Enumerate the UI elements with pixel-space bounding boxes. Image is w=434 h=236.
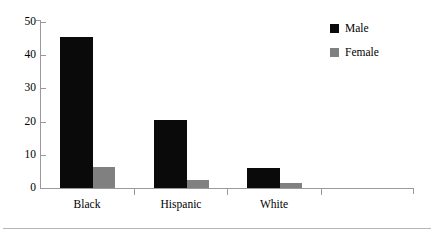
bar-hispanic-female [187, 180, 209, 188]
bar-white-female [280, 183, 302, 188]
bar-black-male [60, 37, 93, 188]
legend-swatch-icon [330, 24, 339, 33]
y-axis-tick-label: 10 [6, 149, 36, 161]
bar-hispanic-male [154, 120, 187, 188]
x-axis-tick-mark [134, 189, 135, 195]
x-axis-category-label: Hispanic [134, 198, 228, 211]
y-axis-tick-label: 20 [6, 116, 36, 128]
x-axis-category-label: White [227, 198, 321, 211]
legend-label: Female [345, 46, 379, 58]
x-axis-tick-mark [321, 189, 322, 195]
x-axis-tick-mark [227, 189, 228, 195]
y-axis-top-cap [36, 20, 41, 21]
chart-legend: MaleFemale [330, 16, 379, 64]
bar-white-male [247, 168, 280, 188]
x-axis-end-cap [413, 188, 414, 194]
legend-item-female: Female [330, 40, 379, 64]
legend-label: Male [345, 22, 369, 34]
bar-chart: 01020304050 BlackHispanicWhite MaleFemal… [0, 0, 434, 236]
legend-item-male: Male [330, 16, 379, 40]
y-axis-tick-label: 50 [6, 16, 36, 28]
y-axis-tick-label: 0 [6, 182, 36, 194]
bar-black-female [93, 167, 115, 188]
x-axis-category-label: Black [40, 198, 134, 211]
y-axis-tick-label: 40 [6, 49, 36, 61]
y-axis-tick-label: 30 [6, 82, 36, 94]
bottom-divider [3, 228, 431, 229]
legend-swatch-icon [330, 48, 339, 57]
